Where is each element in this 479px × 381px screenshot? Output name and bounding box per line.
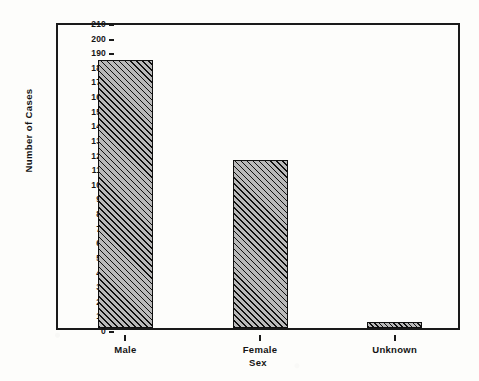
plot-area: 0102030405060708090100110120130140150160… (56, 23, 460, 330)
x-tick-mark (259, 335, 261, 341)
y-tick-mark (109, 331, 114, 333)
y-tick-mark (109, 53, 114, 55)
x-tick-label: Female (243, 344, 278, 355)
x-tick-mark (394, 335, 396, 341)
x-tick-label: Male (114, 344, 136, 355)
x-tick-mark (124, 335, 126, 341)
x-tick-label: Unknown (372, 344, 417, 355)
bar-female (233, 160, 288, 328)
bar-unknown (367, 322, 422, 328)
x-axis-title: Sex (56, 357, 460, 368)
y-tick-label: 190 (91, 48, 106, 59)
bar-chart-figure: Number of Cases 010203040506070809010011… (0, 0, 479, 381)
y-tick-mark (109, 39, 114, 41)
y-tick-mark (109, 24, 114, 26)
y-tick-label: 200 (91, 34, 106, 45)
bar-male (98, 60, 153, 328)
y-axis-title: Number of Cases (23, 51, 34, 211)
y-tick-label: 210 (91, 19, 106, 30)
